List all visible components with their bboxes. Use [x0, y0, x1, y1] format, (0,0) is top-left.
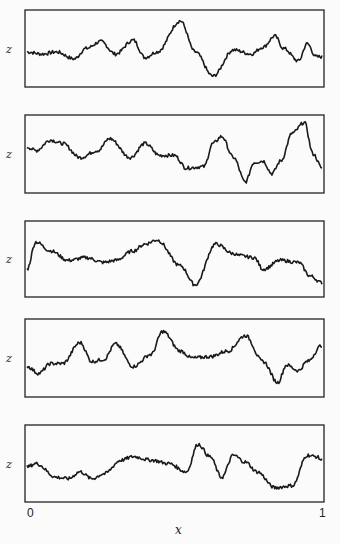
panel-3-series-line — [27, 240, 322, 286]
panel-1-ylabel: z — [5, 43, 12, 56]
panel-4-frame — [25, 319, 324, 397]
panel-2-series-line — [27, 122, 322, 183]
panel-2-ylabel: z — [5, 148, 12, 161]
panel-4-ylabel: z — [5, 352, 12, 365]
panel-5-series-line — [27, 444, 322, 489]
panel-1-frame — [25, 10, 324, 87]
x-tick-0: 0 — [27, 506, 34, 520]
panel-1-series-line — [27, 21, 322, 77]
panel-4-series-line — [27, 331, 322, 384]
stacked-line-chart: zzzzz01x — [0, 0, 340, 544]
panel-5-frame — [25, 425, 324, 502]
x-axis-label: x — [175, 523, 182, 537]
panel-5-ylabel: z — [5, 458, 12, 471]
panel-3-ylabel: z — [5, 253, 12, 266]
x-tick-1: 1 — [319, 506, 326, 520]
